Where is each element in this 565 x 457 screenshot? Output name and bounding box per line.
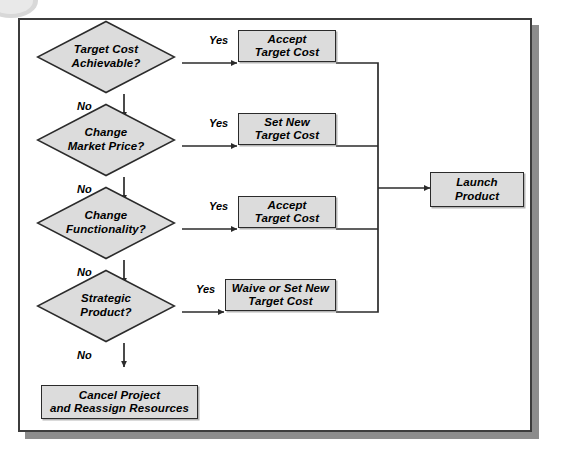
process-accept-target-cost-top[interactable]: Accept Target Cost	[238, 30, 336, 62]
decision-label: Target Cost Achievable?	[36, 20, 176, 94]
decision-label: Change Market Price?	[36, 103, 176, 177]
edge-label-no-3: No	[77, 266, 92, 278]
edge-label-no-2: No	[77, 183, 92, 195]
edge-label-yes-1: Yes	[209, 34, 228, 46]
terminal-cancel-project[interactable]: Cancel Project and Reassign Resources	[41, 385, 198, 419]
process-waive-or-set-new-target-cost[interactable]: Waive or Set New Target Cost	[225, 279, 336, 311]
process-accept-target-cost-third[interactable]: Accept Target Cost	[238, 196, 336, 228]
page-corner-decoration	[0, 0, 38, 18]
process-set-new-target-cost[interactable]: Set New Target Cost	[238, 113, 336, 145]
decision-label: Strategic Product?	[36, 269, 176, 343]
decision-strategic-product[interactable]: Strategic Product?	[36, 269, 176, 343]
flowchart-figure: Target Cost Achievable? Change Market Pr…	[0, 0, 565, 457]
edge-label-no-1: No	[77, 100, 92, 112]
decision-label: Change Functionality?	[36, 186, 176, 260]
decision-change-market-price[interactable]: Change Market Price?	[36, 103, 176, 177]
edge-label-yes-3: Yes	[209, 200, 228, 212]
decision-change-functionality[interactable]: Change Functionality?	[36, 186, 176, 260]
edge-label-yes-2: Yes	[209, 117, 228, 129]
decision-target-cost-achievable[interactable]: Target Cost Achievable?	[36, 20, 176, 94]
terminal-launch-product[interactable]: Launch Product	[430, 172, 524, 207]
edge-label-yes-4: Yes	[196, 283, 215, 295]
edge-label-no-4: No	[77, 349, 92, 361]
